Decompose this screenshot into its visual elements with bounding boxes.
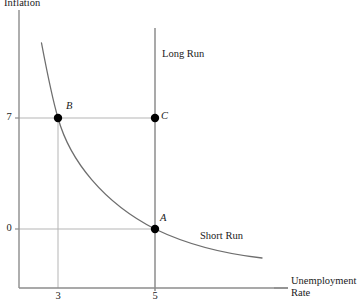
- y-tick-label-7: 7: [2, 111, 16, 123]
- x-tick-label-3: 3: [51, 290, 65, 302]
- y-axis-title: Inflation: [4, 0, 40, 9]
- short-run-curve: [42, 43, 263, 258]
- x-axis-title-line1: Unemployment: [291, 275, 356, 286]
- point-marker-a: [151, 225, 159, 233]
- point-marker-c: [151, 114, 159, 122]
- point-label-b: B: [66, 100, 72, 112]
- short-run-curve-label: Short Run: [200, 230, 243, 242]
- x-tick-label-5: 5: [148, 290, 162, 302]
- point-label-c: C: [161, 110, 168, 122]
- guide-lines: [19, 118, 155, 288]
- phillips-curve-figure: Inflation UnemploymentRate 7 0 3 5 A B C…: [0, 0, 357, 304]
- y-tick-label-0: 0: [2, 222, 16, 234]
- x-axis-title: UnemploymentRate: [291, 275, 356, 300]
- data-points: [54, 114, 159, 233]
- point-label-a: A: [160, 212, 166, 224]
- axis-lines: [19, 10, 288, 288]
- x-axis-title-line2: Rate: [291, 287, 310, 298]
- long-run-curve-label: Long Run: [162, 48, 204, 60]
- plot-area: [0, 0, 357, 304]
- point-marker-b: [54, 114, 62, 122]
